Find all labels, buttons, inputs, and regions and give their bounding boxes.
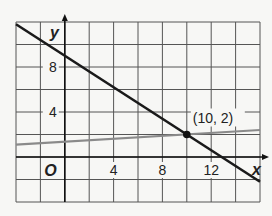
y-axis-arrow-icon — [62, 14, 68, 21]
intersection-label: (10, 2) — [193, 110, 233, 126]
y-tick-label: 8 — [49, 59, 57, 75]
axis-labels: (10, 2)481248Oxy — [43, 24, 262, 179]
y-axis-label: y — [49, 24, 60, 41]
y-tick-label: 4 — [49, 104, 57, 120]
x-axis-label: x — [251, 161, 262, 178]
x-tick-label: 4 — [110, 162, 118, 178]
coordinate-plane: (10, 2)481248Oxy — [0, 0, 272, 216]
x-tick-label: 8 — [159, 162, 167, 178]
x-tick-label: 12 — [203, 162, 219, 178]
x-axis-arrow-icon — [262, 154, 269, 160]
origin-label: O — [44, 162, 57, 179]
intersection-point — [183, 131, 191, 139]
